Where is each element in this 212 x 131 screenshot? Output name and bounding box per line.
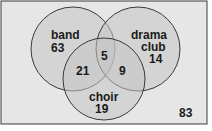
drama-only-count: 14	[149, 52, 163, 66]
outside-count: 83	[179, 106, 193, 120]
triple-overlap-count: 5	[101, 49, 108, 63]
venn-svg: band 63 drama club 14 5 21 9 choir 19 83	[0, 0, 212, 131]
venn-diagram: band 63 drama club 14 5 21 9 choir 19 83	[0, 0, 212, 131]
band-label: band	[51, 28, 80, 42]
choir-only-count: 19	[95, 102, 109, 116]
band-only-count: 63	[51, 41, 65, 55]
drama-choir-count: 9	[119, 64, 126, 78]
band-choir-count: 21	[76, 64, 90, 78]
